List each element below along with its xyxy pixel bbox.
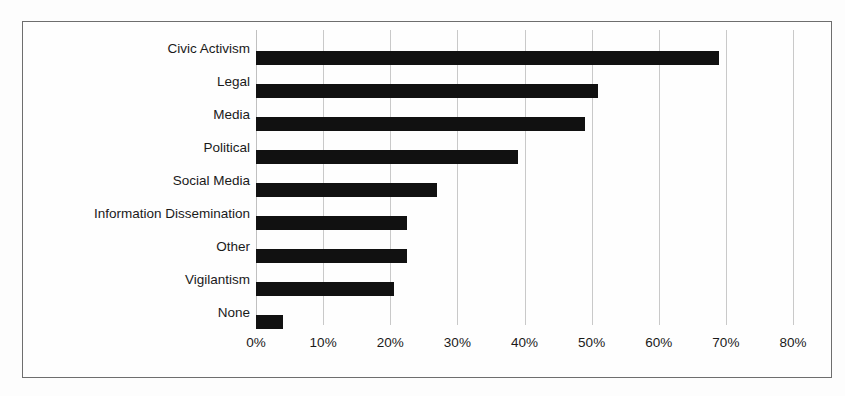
bar-row — [256, 206, 793, 239]
x-tick-label: 30% — [432, 335, 482, 351]
bar-row — [256, 272, 793, 305]
bar — [256, 315, 283, 329]
category-label: None — [30, 306, 250, 320]
x-tick-label: 60% — [634, 335, 684, 351]
bar — [256, 117, 585, 131]
x-tick-label: 80% — [768, 335, 818, 351]
bar-row — [256, 173, 793, 206]
category-label: Political — [30, 141, 250, 155]
bar — [256, 249, 407, 263]
category-label: Legal — [30, 75, 250, 89]
x-tick-label: 10% — [298, 335, 348, 351]
gridline-80pct — [793, 30, 794, 325]
category-label: Social Media — [30, 174, 250, 188]
category-label: Media — [30, 108, 250, 122]
bar-row — [256, 239, 793, 272]
bar — [256, 84, 598, 98]
bar-row — [256, 74, 793, 107]
category-label: Information Dissemination — [30, 207, 250, 221]
bar — [256, 282, 394, 296]
x-tick-label: 0% — [231, 335, 281, 351]
bar — [256, 150, 518, 164]
bar-row — [256, 107, 793, 140]
category-label: Civic Activism — [30, 42, 250, 56]
plot-area — [256, 30, 793, 325]
bar — [256, 216, 407, 230]
bar-row — [256, 140, 793, 173]
x-tick-label: 70% — [701, 335, 751, 351]
x-tick-label: 20% — [365, 335, 415, 351]
bar-chart-figure: Civic ActivismLegalMediaPoliticalSocial … — [0, 0, 845, 396]
x-tick-label: 50% — [567, 335, 617, 351]
category-label: Other — [30, 240, 250, 254]
bar — [256, 183, 437, 197]
bar-row — [256, 305, 793, 338]
category-label: Vigilantism — [30, 273, 250, 287]
bar-row — [256, 41, 793, 74]
x-tick-label: 40% — [500, 335, 550, 351]
bar — [256, 51, 719, 65]
